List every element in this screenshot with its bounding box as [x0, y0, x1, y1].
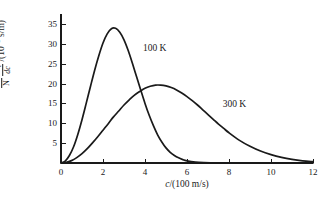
x-axis-title: c/(100 m/s) [165, 180, 209, 190]
y-axis-derivative-denominator: dc [2, 64, 12, 76]
y-axis-unit-exponent: −3 [0, 39, 1, 46]
curve-100k [61, 28, 313, 163]
y-tick-label: 35 [48, 19, 57, 28]
y-axis-unit: /(10−3 s/m) [0, 20, 7, 62]
y-axis-derivative-fraction: dnc dc [0, 63, 12, 78]
y-tick-label: 20 [48, 79, 57, 88]
y-tick-label: 30 [48, 39, 57, 48]
x-tick-label: 0 [59, 168, 64, 177]
y-axis-ticks [61, 25, 66, 144]
y-tick-label: 15 [48, 99, 57, 108]
data-curves [61, 28, 313, 163]
y-axis-title: 1 N dnc dc /(10−3 s/m) [0, 20, 12, 88]
series-annotation-100-k: 100 K [143, 44, 167, 54]
y-tick-label: 25 [48, 59, 57, 68]
x-tick-label: 12 [309, 168, 318, 177]
y-axis-prefix-denominator: N [2, 78, 12, 88]
curve-300k [61, 85, 313, 163]
y-tick-label: 10 [48, 119, 57, 128]
x-tick-label: 4 [143, 168, 148, 177]
series-annotation-300-k: 300 K [223, 100, 247, 110]
x-tick-label: 10 [267, 168, 276, 177]
maxwell-speed-distribution-figure: 024681012 5101520253035 100 K300 K c/(10… [0, 0, 330, 201]
x-tick-label: 6 [185, 168, 190, 177]
x-tick-label: 2 [101, 168, 106, 177]
axes [61, 14, 313, 163]
x-tick-label: 8 [227, 168, 232, 177]
y-axis-prefix-fraction: 1 N [0, 78, 11, 88]
y-tick-label: 5 [53, 139, 58, 148]
